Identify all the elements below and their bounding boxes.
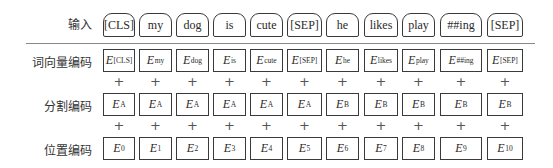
embedding-subscript: 8 [421,144,425,153]
embedding-symbol: E [497,141,504,156]
token-embedding-box: Ecute [250,49,283,72]
position-embedding-box: E4 [250,137,283,160]
position-embedding-box: E2 [176,137,209,160]
embedding-subscript: 2 [195,144,199,153]
embedding-symbol: E [412,97,419,112]
embedding-subscript: likes [378,56,392,65]
token-embedding-box: Ehe [326,49,359,72]
embedding-subscript: 1 [158,144,162,153]
embedding-subscript: A [231,100,236,109]
embedding-symbol: E [149,97,156,112]
input-token-box: is [213,13,246,37]
embedding-subscript: A [306,100,311,109]
embedding-subscript: cute [264,56,277,65]
embedding-symbol: E [337,141,344,156]
embedding-symbol: E [223,97,230,112]
segment-embedding-box: EB [326,93,359,116]
token-embedding-box: Edog [176,49,209,72]
input-token-box: cute [250,13,283,37]
input-token-box: he [326,13,359,37]
embedding-subscript: A [120,100,125,109]
plus-sign: + [326,77,359,87]
embedding-symbol: E [299,141,306,156]
plus-sign: + [440,77,482,87]
embedding-subscript: B [506,100,511,109]
segment-embedding-box: EA [139,93,172,116]
token-embedding-box: Eplay [402,49,435,72]
plus-sign: + [326,121,359,131]
embedding-subscript: ##ing [456,56,473,65]
embedding-symbol: E [112,97,119,112]
embedding-subscript: [CLS] [114,56,133,65]
embedding-subscript: 3 [232,144,236,153]
embedding-subscript: A [157,100,162,109]
embedding-subscript: A [268,100,273,109]
embedding-symbol: E [183,53,190,68]
embedding-subscript: 10 [505,144,513,153]
separator-line [26,43,535,44]
position-embedding-box: E0 [103,137,135,160]
embedding-subscript: dog [191,56,202,65]
plus-sign: + [103,121,135,131]
plus-sign: + [287,121,322,131]
embedding-subscript: 5 [307,144,311,153]
embedding-symbol: E [223,53,230,68]
input-token-box: my [139,13,172,37]
embedding-subscript: [SEP] [299,56,317,65]
embedding-symbol: E [292,53,299,68]
embedding-symbol: E [455,97,462,112]
plus-sign: + [487,121,523,131]
segment-embedding-box: EA [103,93,135,116]
embedding-symbol: E [335,53,342,68]
segment-embedding-box: EA [250,93,283,116]
embedding-symbol: E [298,97,305,112]
embedding-symbol: E [113,141,120,156]
position-embedding-box: E10 [487,137,523,160]
embedding-symbol: E [260,97,267,112]
embedding-subscript: play [416,56,429,65]
input-token-box: ##ing [440,13,482,37]
embedding-symbol: E [224,141,231,156]
plus-sign: + [139,121,172,131]
position-embedding-box: E1 [139,137,172,160]
plus-sign: + [287,77,322,87]
embedding-subscript: 4 [269,144,273,153]
embedding-symbol: E [499,97,506,112]
position-embedding-box: E8 [402,137,435,160]
embedding-symbol: E [492,53,499,68]
input-token-box: likes [364,13,398,37]
segment-embedding-box: EB [440,93,482,116]
embedding-symbol: E [455,141,462,156]
input-token-box: dog [176,13,209,37]
row-label-input: 输入 [0,15,92,32]
embedding-subscript: B [420,100,425,109]
token-embedding-box: Emy [139,49,172,72]
input-token-box: play [402,13,435,37]
position-embedding-box: E9 [440,137,482,160]
plus-sign: + [103,77,135,87]
embedding-subscript: 6 [345,144,349,153]
plus-sign: + [213,121,246,131]
token-embedding-box: E[SEP] [487,49,523,72]
segment-embedding-box: EB [487,93,523,116]
plus-sign: + [440,121,482,131]
embedding-symbol: E [186,97,193,112]
embedding-symbol: E [261,141,268,156]
plus-sign: + [402,121,435,131]
embedding-subscript: 7 [383,144,387,153]
row-label-segment-embedding: 分割编码 [0,97,92,114]
embedding-symbol: E [150,141,157,156]
segment-embedding-box: EB [402,93,435,116]
plus-sign: + [176,77,209,87]
plus-sign: + [139,77,172,87]
embedding-symbol: E [256,53,263,68]
row-label-token-embedding: 词向量编码 [0,53,92,70]
embedding-subscript: A [194,100,199,109]
input-token-box: [CLS] [103,13,135,37]
row-label-position-embedding: 位置编码 [0,141,92,158]
embedding-subscript: [SEP] [500,56,518,65]
embedding-subscript: 9 [463,144,467,153]
embedding-symbol: E [187,141,194,156]
embedding-symbol: E [375,97,382,112]
embedding-subscript: he [343,56,350,65]
